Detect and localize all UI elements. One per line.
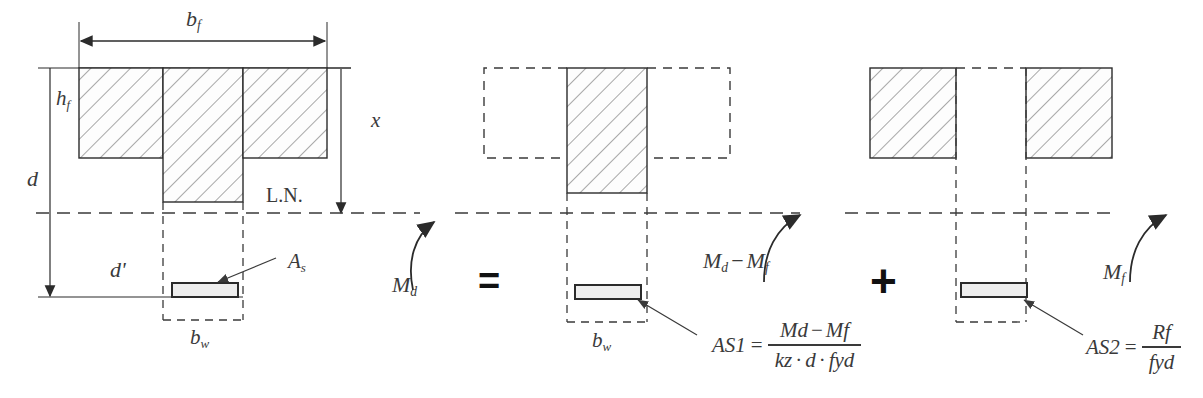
label-moment-md: Md [392, 272, 417, 300]
label-moment-mf: Mf [1103, 259, 1125, 287]
label-as: As [288, 249, 306, 276]
moment-md-minus-mf-arc [764, 215, 800, 282]
middle-flange-dashed-right [647, 68, 730, 158]
formula-as1-equals: = [751, 333, 763, 358]
formula-as1-denominator: kz·d·fyd [768, 346, 862, 373]
label-x: x [371, 108, 380, 133]
label-bw-middle: bw [592, 328, 611, 355]
right-flange-right-block [1026, 68, 1112, 158]
formula-as1-numerator: Md−Mf [773, 318, 856, 344]
label-d: d [27, 166, 38, 192]
left-rebar-bar [172, 283, 238, 297]
moment-mf-arc [1130, 215, 1166, 282]
label-bw-left: bw [190, 325, 209, 352]
formula-as2-lhs: AS2 [1086, 335, 1120, 360]
plus-sign: + [870, 258, 897, 304]
middle-web-section-group [455, 68, 800, 335]
label-bf: bf [186, 6, 201, 34]
label-neutral-axis: L.N. [266, 184, 303, 207]
label-hf: hf [56, 86, 70, 113]
label-moment-md-minus-mf: Md−Mf [703, 248, 769, 276]
diagram-canvas: bf hf d d' x L.N. As bw Md = bw Md−Mf [0, 0, 1203, 398]
middle-rebar-bar [575, 285, 641, 299]
left-flange-right-overhang [243, 68, 327, 158]
right-rebar-bar [961, 283, 1027, 297]
formula-as2-denominator: fyd [1142, 348, 1182, 375]
middle-rebar-leader [638, 300, 697, 335]
left-flange-left-overhang [79, 68, 163, 158]
left-web-compression-block [163, 68, 243, 202]
formula-as2-equals: = [1125, 335, 1137, 360]
left-rebar-leader [218, 258, 276, 282]
formula-as1: AS1 = Md−Mf kz·d·fyd [712, 318, 861, 373]
equals-sign: = [478, 262, 500, 300]
left-t-section-group [36, 22, 420, 320]
formula-as2-numerator: Rf [1145, 320, 1178, 346]
right-flange-left-block [870, 68, 956, 158]
right-rebar-leader [1024, 300, 1083, 335]
middle-flange-dashed-left [484, 68, 567, 158]
label-d-prime: d' [110, 257, 126, 283]
formula-as2: AS2 = Rf fyd [1086, 320, 1181, 375]
middle-web-block [567, 68, 647, 193]
formula-as1-lhs: AS1 [712, 333, 746, 358]
